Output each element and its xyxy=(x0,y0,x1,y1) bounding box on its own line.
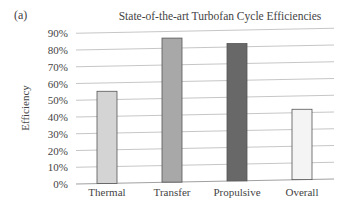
y-tick-label: 20% xyxy=(48,145,68,157)
y-axis-ticks: 0%10%20%30%40%50%60%70%80%90% xyxy=(48,27,68,190)
y-tick-label: 30% xyxy=(48,128,68,140)
gridline xyxy=(76,28,334,33)
bar-propulsive xyxy=(227,44,247,181)
y-tick-label: 90% xyxy=(48,27,68,39)
x-tick-label: Transfer xyxy=(154,186,191,198)
y-tick-label: 80% xyxy=(48,44,68,56)
gridline xyxy=(76,79,334,84)
gridline xyxy=(76,62,334,67)
y-tick-label: 40% xyxy=(48,111,68,123)
gridline xyxy=(76,45,334,50)
chart-plot-area: 0%10%20%30%40%50%60%70%80%90% ThermalTra… xyxy=(0,0,352,211)
y-tick-label: 60% xyxy=(48,78,68,90)
x-tick-label: Propulsive xyxy=(213,186,260,198)
y-tick-label: 50% xyxy=(48,94,68,106)
bar-overall xyxy=(292,109,312,179)
x-tick-label: Overall xyxy=(286,186,319,198)
y-tick-label: 70% xyxy=(48,61,68,73)
bar-thermal xyxy=(97,91,117,183)
y-tick-label: 0% xyxy=(53,178,68,190)
y-tick-label: 10% xyxy=(48,161,68,173)
bars xyxy=(97,38,312,183)
x-tick-label: Thermal xyxy=(88,186,125,198)
bar-transfer xyxy=(162,38,182,182)
x-axis-labels: ThermalTransferPropulsiveOverall xyxy=(88,186,318,198)
